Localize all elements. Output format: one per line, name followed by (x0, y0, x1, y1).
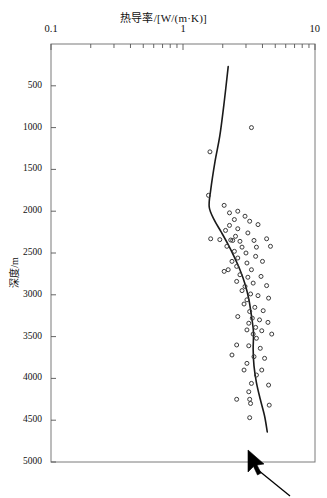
y-axis-ticks (51, 86, 56, 462)
mouse-pointer-icon (248, 450, 290, 496)
plot-canvas (0, 0, 327, 498)
fit-curve (209, 67, 267, 432)
x-axis-ticks (51, 44, 315, 50)
thermal-conductivity-depth-chart: 热导率/[W/(m·K)] 深度/m 0.1 1 10 500 1000 150… (0, 0, 327, 498)
scatter-points (206, 126, 273, 420)
axes-frame (51, 44, 315, 462)
